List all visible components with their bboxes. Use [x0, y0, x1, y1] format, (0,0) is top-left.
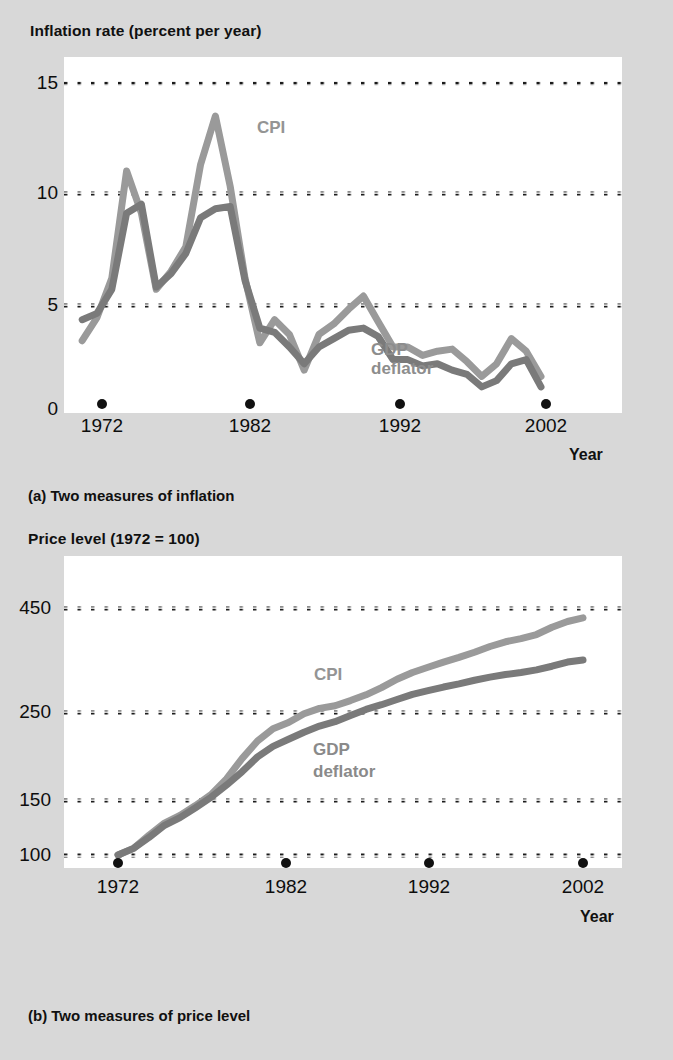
panel-b-label-cpi: CPI: [314, 665, 342, 684]
panel-b-xtick-1972: 1972: [83, 876, 153, 898]
panel-b-xdot-1972: [113, 858, 123, 868]
gridline-10: [64, 192, 622, 196]
panel-a-xdot-2002: [541, 399, 551, 409]
gridline-250: [64, 711, 622, 715]
panel-a-ytick-0: 0: [12, 398, 58, 420]
panel-a-ytick-15: 15: [12, 72, 58, 94]
series-line-gdp-deflator: [118, 660, 583, 855]
panel-a-plot-area: [64, 57, 622, 413]
gridline-150: [64, 799, 622, 803]
panel-b-svg: [64, 556, 622, 868]
panel-a-caption: (a) Two measures of inflation: [28, 487, 234, 504]
panel-a-svg: [64, 57, 622, 413]
panel-a-xtick-2002: 2002: [511, 415, 581, 437]
panel-a-xdot-1982: [245, 399, 255, 409]
panel-a-series-group: [82, 116, 541, 387]
panel-b-ytick-150: 150: [5, 789, 51, 811]
panel-b-xdot-1992: [424, 858, 434, 868]
panel-b-ytick-250: 250: [5, 701, 51, 723]
panel-b-xdot-1982: [281, 858, 291, 868]
panel-a-label-gdp: GDP: [371, 340, 408, 359]
panel-a-axis-title: Inflation rate (percent per year): [30, 22, 262, 40]
panel-a-xtick-1982: 1982: [215, 415, 285, 437]
panel-a-label-gdp-deflator: deflator: [371, 359, 433, 378]
panel-a-xaxis-label: Year: [569, 446, 603, 464]
panel-b-label-gdp: GDP: [313, 740, 350, 759]
panel-a-xdot-1972: [97, 399, 107, 409]
gridline-15: [64, 82, 622, 86]
panel-a-ytick-5: 5: [12, 294, 58, 316]
panel-b-ytick-450: 450: [5, 597, 51, 619]
panel-b-ytick-100: 100: [5, 844, 51, 866]
panel-a-xtick-1992: 1992: [365, 415, 435, 437]
gridline-450: [64, 607, 622, 611]
series-line-cpi: [118, 618, 583, 855]
panel-a-xtick-1972: 1972: [67, 415, 137, 437]
panel-b-plot-area: [64, 556, 622, 868]
panel-b-xtick-2002: 2002: [548, 876, 618, 898]
panel-b-xtick-1992: 1992: [394, 876, 464, 898]
panel-b-xaxis-label: Year: [580, 908, 614, 926]
panel-a-label-cpi: CPI: [257, 118, 285, 137]
gridline-100: [64, 854, 622, 858]
panel-b-xdot-2002: [578, 858, 588, 868]
panel-b-series-group: [118, 618, 583, 855]
gridline-5: [64, 304, 622, 308]
panel-b-xtick-1982: 1982: [251, 876, 321, 898]
figure-page: Inflation rate (percent per year) 15 10 …: [0, 0, 673, 1060]
panel-b-label-gdp-deflator: deflator: [313, 762, 375, 781]
series-line-gdp-deflator: [82, 204, 541, 387]
panel-b-axis-title: Price level (1972 = 100): [28, 530, 200, 548]
panel-b-caption: (b) Two measures of price level: [28, 1007, 250, 1024]
panel-a-xdot-1992: [395, 399, 405, 409]
panel-a-ytick-10: 10: [12, 182, 58, 204]
